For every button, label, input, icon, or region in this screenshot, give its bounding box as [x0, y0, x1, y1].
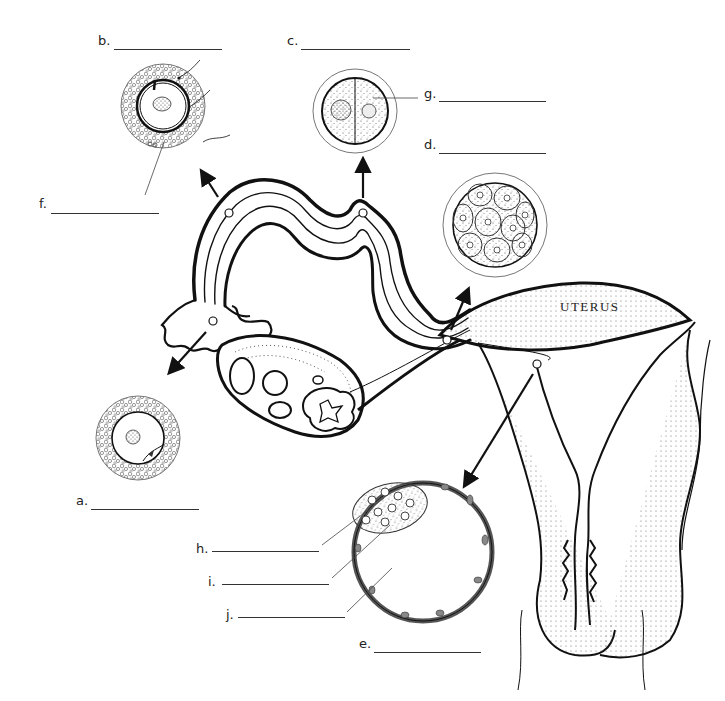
label-f-letter: f.	[39, 196, 47, 211]
answer-blank-i[interactable]	[222, 584, 329, 585]
position-marker	[225, 209, 233, 217]
uterus-label: UTERUS	[560, 299, 620, 314]
answer-blank-c[interactable]	[301, 49, 410, 50]
label-j-letter: j.	[226, 607, 234, 622]
position-marker	[359, 209, 367, 217]
uterus: UTERUS	[440, 283, 710, 690]
reproductive-tract-diagram: UTERUS	[0, 0, 725, 701]
answer-blank-a[interactable]	[91, 509, 199, 510]
label-g-letter: g.	[424, 86, 436, 101]
fertilization	[121, 60, 230, 195]
two-cell-zygote	[313, 69, 418, 153]
answer-blank-h[interactable]	[212, 551, 319, 552]
answer-blank-d[interactable]	[439, 153, 546, 154]
label-i-letter: i.	[208, 574, 216, 589]
label-c-letter: c.	[287, 33, 298, 48]
leader-line-f	[145, 142, 164, 195]
label-b-letter: b.	[98, 33, 110, 48]
label-d-letter: d.	[424, 137, 436, 152]
label-e-letter: e.	[359, 636, 371, 651]
answer-blank-f[interactable]	[51, 213, 159, 214]
leader-line-j	[347, 568, 392, 612]
label-h-letter: h.	[196, 541, 208, 556]
answer-blank-e[interactable]	[374, 652, 481, 653]
secondary-oocyte	[96, 396, 180, 480]
blastocyst	[322, 475, 492, 621]
leader-line-i	[332, 525, 390, 578]
answer-blank-j[interactable]	[238, 617, 345, 618]
answer-blank-g[interactable]	[439, 101, 546, 102]
fallopian-tube	[194, 180, 470, 349]
answer-blank-b[interactable]	[114, 49, 222, 50]
label-a-letter: a.	[76, 493, 88, 508]
morula	[443, 173, 547, 277]
ovary	[217, 330, 470, 436]
